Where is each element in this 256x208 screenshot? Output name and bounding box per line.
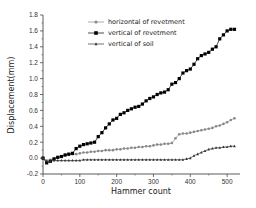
y-tick-label: 0.2 (29, 139, 38, 146)
x-tick-label: 500 (222, 178, 233, 185)
y-tick-label: 0.6 (29, 107, 38, 114)
y-tick-label: 1.0 (29, 75, 38, 82)
legend-label: horizontal of revetment (108, 18, 185, 26)
axes: -0.20.00.20.40.60.81.01.21.41.61.8010020… (27, 11, 240, 185)
y-tick-label: 0.4 (29, 123, 38, 130)
y-tick-label: 1.8 (29, 11, 38, 18)
x-tick-label: 0 (41, 178, 45, 185)
legend: horizontal of revetmentvertical of revet… (88, 18, 185, 48)
y-tick-label: 0.0 (29, 154, 38, 161)
y-tick-label: 1.2 (29, 59, 38, 66)
y-tick-label: -0.2 (27, 170, 39, 177)
legend-label: vertical of soil (108, 40, 154, 48)
x-tick-label: 200 (111, 178, 122, 185)
x-tick-label: 400 (185, 178, 196, 185)
y-tick-label: 1.4 (29, 43, 38, 50)
y-tick-label: 1.6 (29, 27, 38, 34)
legend-item: vertical of soil (88, 40, 154, 48)
y-axis-title: Displacement(mm) (7, 57, 16, 134)
x-axis-title: Hammer count (111, 187, 171, 196)
legend-item: vertical of revetment (88, 29, 177, 37)
legend-label: vertical of revetment (108, 29, 177, 37)
series-horizontal-of-revetment (42, 117, 236, 162)
legend-item: horizontal of revetment (88, 18, 185, 26)
y-tick-label: 0.8 (29, 91, 38, 98)
x-tick-label: 100 (74, 178, 85, 185)
x-tick-label: 300 (148, 178, 159, 185)
displacement-chart: -0.20.00.20.40.60.81.01.21.41.61.8010020… (0, 0, 256, 208)
